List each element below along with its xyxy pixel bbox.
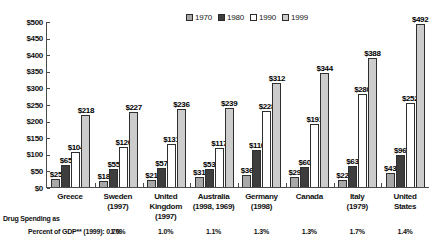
- x-axis-label-canada: Canada: [285, 192, 333, 222]
- legend-swatch-icon-1970: [186, 14, 193, 21]
- y-tick-label: $250: [26, 100, 47, 109]
- y-tick-label: $200: [26, 117, 47, 126]
- x-axis-label-united: UnitedStates: [381, 192, 429, 222]
- bar-australia-1999: $239: [225, 108, 234, 187]
- x-axis-label-italy: Italy(1979): [333, 192, 381, 222]
- legend-label-1970: 1970: [195, 13, 212, 22]
- bar-value-label: $239: [221, 99, 237, 108]
- bar-italy-1970: $22: [338, 180, 347, 187]
- y-tick-label: $150: [26, 133, 47, 142]
- bar-value-label: $43: [384, 164, 396, 173]
- gdp-percent-canada: 1.3%: [285, 228, 333, 235]
- bar-value-label: $57: [155, 159, 167, 168]
- legend-item-1999: 1999: [282, 13, 308, 22]
- bar-group-canada: $29$60$191$344: [286, 22, 334, 187]
- drug-spending-bar-chart: 1970198019901999 $500$450$400$350$300$25…: [0, 0, 433, 245]
- bar-group-italy: $22$63$280$388: [334, 22, 382, 187]
- bar-germany-1980: $110: [252, 150, 261, 187]
- bar-germany-1990: $228: [262, 111, 271, 187]
- bar-group-australia: $31$53$117$239: [190, 22, 238, 187]
- bar-united-1970: $21: [147, 180, 156, 187]
- y-tick-label: $50: [31, 166, 47, 175]
- bar-germany-1970: $36: [242, 175, 251, 187]
- x-axis-label-sweden: Sweden(1997): [94, 192, 142, 222]
- gdp-percent-sweden: 1.0%: [94, 228, 142, 235]
- bar-value-label: $65: [60, 156, 72, 165]
- legend-swatch-icon-1980: [218, 14, 225, 21]
- x-axis-label-line: Germany: [239, 192, 285, 202]
- y-tick-label: $300: [26, 83, 47, 92]
- bar-group-germany: $36$110$228$312: [238, 22, 286, 187]
- bar-value-label: $25: [50, 170, 62, 179]
- gdp-percent-italy: 1.7%: [333, 228, 381, 235]
- legend-swatch-icon-1990: [250, 14, 257, 21]
- bar-sweden-1990: $120: [119, 147, 128, 187]
- gdp-percent-australia: 1.1%: [190, 228, 238, 235]
- bar-value-label: $53: [203, 160, 215, 169]
- x-axis-label-line: (1997): [143, 212, 189, 222]
- bar-group-sweden: $18$55$120$227: [95, 22, 143, 187]
- x-axis-label-line: Greece: [47, 192, 93, 202]
- bar-united-1990: $252: [406, 103, 415, 187]
- bar-value-label: $55: [108, 160, 120, 169]
- x-axis-label-line: Australia: [191, 192, 237, 202]
- bar-greece-1990: $104: [71, 152, 80, 187]
- x-axis-label-line: Sweden: [95, 192, 141, 202]
- x-axis-label-line: Kingdom: [143, 202, 189, 212]
- y-tick-label: $400: [26, 50, 47, 59]
- bar-australia-1990: $117: [215, 148, 224, 187]
- bar-value-label: $96: [394, 146, 406, 155]
- x-axis-label-germany: Germany(1998): [238, 192, 286, 222]
- bar-value-label: $388: [364, 49, 380, 58]
- bar-value-label: $22: [336, 171, 348, 180]
- bar-group-united: $43$96$252$492: [381, 22, 429, 187]
- bar-value-label: $60: [299, 158, 311, 167]
- bar-italy-1999: $388: [368, 58, 377, 187]
- bar-greece-1970: $25: [51, 179, 60, 187]
- bar-value-label: $63: [346, 157, 358, 166]
- bar-value-label: $492: [412, 15, 428, 24]
- bar-value-label: $312: [269, 74, 285, 83]
- bar-united-1970: $43: [386, 173, 395, 187]
- x-axis-label-line: (1998, 1969): [191, 202, 237, 212]
- bar-canada-1970: $29: [290, 177, 299, 187]
- bar-canada-1999: $344: [320, 73, 329, 187]
- bar-sweden-1970: $18: [99, 181, 108, 187]
- bar-sweden-1980: $55: [109, 169, 118, 187]
- legend-label-1990: 1990: [259, 13, 276, 22]
- plot-area: $500$450$400$350$300$250$200$150$100$50$…: [46, 22, 429, 188]
- legend-item-1980: 1980: [218, 13, 244, 22]
- bar-value-label: $18: [98, 172, 110, 181]
- gdp-percent-united: 1.0%: [142, 228, 190, 235]
- y-tick-label: $100: [26, 150, 47, 159]
- y-tick-label: $0: [35, 183, 47, 192]
- y-tick-label: $350: [26, 67, 47, 76]
- legend-item-1970: 1970: [186, 13, 212, 22]
- x-axis-labels: GreeceSweden(1997)UnitedKingdom(1997)Aus…: [46, 192, 429, 222]
- bar-united-1980: $96: [396, 155, 405, 187]
- bar-value-label: $36: [241, 166, 253, 175]
- bar-united-1999: $492: [416, 24, 425, 187]
- gdp-percent-united: 1.4%: [381, 228, 429, 235]
- bar-groups: $25$65$104$218$18$55$120$227$21$57$131$2…: [47, 22, 429, 187]
- bar-united-1999: $236: [177, 109, 186, 187]
- x-axis-label-line: Italy: [334, 192, 380, 202]
- bar-value-label: $227: [126, 103, 142, 112]
- bar-sweden-1999: $227: [129, 112, 138, 187]
- x-axis-label-line: United: [382, 192, 428, 202]
- gdp-percent-row: 0.7%1.0%1.0%1.1%1.3%1.3%1.7%1.4%: [46, 228, 429, 235]
- legend-label-1999: 1999: [291, 13, 308, 22]
- gdp-footnote-label: Drug Spending as: [3, 214, 79, 223]
- x-axis-label-line: (1979): [334, 202, 380, 212]
- bar-italy-1980: $63: [348, 166, 357, 187]
- x-axis-label-line: States: [382, 202, 428, 212]
- bar-value-label: $21: [145, 171, 157, 180]
- x-axis-label-line: (1997): [95, 202, 141, 212]
- y-tick-mark: [47, 188, 50, 189]
- x-axis-label-line: (1998): [239, 202, 285, 212]
- bar-value-label: $344: [317, 64, 333, 73]
- bar-greece-1999: $218: [81, 115, 90, 187]
- bar-group-greece: $25$65$104$218: [47, 22, 95, 187]
- legend-label-1980: 1980: [227, 13, 244, 22]
- bar-greece-1980: $65: [61, 165, 70, 187]
